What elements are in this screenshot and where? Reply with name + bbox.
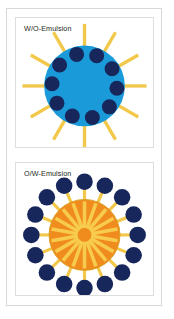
water-droplets: [56, 276, 73, 293]
oil-rays: [31, 106, 51, 117]
o-w-emulsion-illustration: [16, 163, 153, 295]
water-droplets: [114, 189, 131, 206]
water-droplets: [105, 61, 120, 76]
droplet-stems: [42, 248, 53, 253]
water-droplets: [49, 96, 64, 111]
oil-rays: [53, 32, 64, 52]
droplet-stems: [116, 217, 127, 222]
droplet-stems: [109, 202, 117, 210]
droplet-stems: [67, 192, 72, 203]
water-droplets: [125, 206, 142, 223]
water-droplets: [56, 177, 73, 194]
water-droplets: [39, 264, 56, 281]
water-droplets: [129, 227, 146, 244]
droplet-stems: [98, 192, 103, 203]
water-droplets: [85, 110, 100, 125]
water-droplets: [97, 177, 114, 194]
oil-rays: [104, 32, 115, 52]
droplet-stems: [116, 248, 127, 253]
w-o-emulsion-illustration: [16, 18, 153, 147]
water-droplets: [69, 47, 84, 62]
water-droplets: [52, 58, 67, 73]
water-droplets: [125, 247, 142, 264]
water-droplets: [65, 109, 80, 124]
droplet-stems: [52, 259, 60, 267]
water-droplets: [23, 227, 40, 244]
water-droplets: [109, 81, 124, 96]
water-droplets: [27, 206, 44, 223]
droplet-stems: [109, 259, 117, 267]
water-droplets: [102, 99, 117, 114]
droplet-stems: [42, 217, 53, 222]
figure-root: W/O-Emulsion O/W-Emulsion Emulsion types…: [0, 0, 174, 319]
water-droplets: [45, 76, 60, 91]
droplet-stems: [52, 202, 60, 210]
oil-rays: [104, 120, 115, 140]
oil-rays: [31, 55, 51, 66]
panel-o-w-emulsion: O/W-Emulsion: [15, 162, 154, 296]
water-droplets: [89, 48, 104, 63]
oil-rays: [119, 106, 139, 117]
water-droplets: [39, 189, 56, 206]
water-droplets: [76, 173, 93, 190]
oil-rays: [53, 120, 64, 140]
water-droplets: [114, 264, 131, 281]
figure-title: Emulsion types schematic: [0, 0, 1, 1]
panel-w-o-emulsion: W/O-Emulsion: [15, 17, 154, 148]
oil-rays: [119, 55, 139, 66]
water-droplets: [27, 247, 44, 264]
water-droplets: [76, 280, 93, 295]
droplet-stems: [67, 267, 72, 278]
droplet-stems: [98, 267, 103, 278]
water-droplets: [97, 276, 114, 293]
